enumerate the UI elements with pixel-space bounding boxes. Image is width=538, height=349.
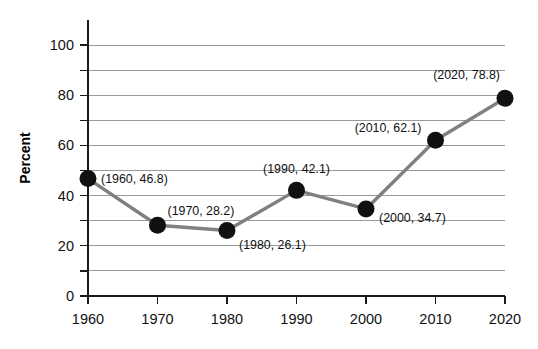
y-axis-tick-label: 40 (58, 188, 74, 204)
data-point-label: (1970, 28.2) (168, 204, 235, 218)
y-axis-title-text: Percent (17, 132, 33, 184)
data-point-label: (2000, 34.7) (379, 211, 446, 225)
x-axis-tick-label: 2010 (419, 311, 451, 327)
data-point-marker (219, 222, 236, 239)
y-axis-tick-label: 100 (50, 37, 74, 53)
line-chart-figure: 020406080100 196019701980199020002010202… (0, 0, 538, 349)
y-axis-tick-label: 0 (66, 288, 74, 304)
data-point-label: (1960, 46.8) (101, 172, 168, 186)
x-axis-tick-label: 1970 (141, 311, 173, 327)
data-point-marker (80, 170, 97, 187)
data-point-marker (358, 200, 375, 217)
data-point-label: (1980, 26.1) (239, 238, 306, 252)
y-axis-tick-label: 60 (58, 137, 74, 153)
data-point-label: (2010, 62.1) (355, 121, 422, 135)
axes-group (88, 20, 505, 296)
chart-canvas: 020406080100 196019701980199020002010202… (0, 0, 538, 349)
x-axis-tick-label: 2000 (350, 311, 382, 327)
x-axis-tick-label: 2020 (489, 311, 521, 327)
x-axis-tick-labels: 1960197019801990200020102020 (72, 311, 521, 327)
x-axis-tick-label: 1980 (211, 311, 243, 327)
data-point-label: (1990, 42.1) (263, 162, 330, 176)
x-axis-ticks-group (88, 296, 505, 304)
data-point-marker (288, 182, 305, 199)
data-point-marker (149, 217, 166, 234)
data-point-label: (2020, 78.8) (433, 68, 500, 82)
y-axis-tick-label: 20 (58, 238, 74, 254)
y-axis-tick-labels: 020406080100 (50, 37, 74, 304)
y-axis-tick-label: 80 (58, 87, 74, 103)
data-point-marker (497, 90, 514, 107)
y-axis-title: Percent (17, 132, 33, 184)
x-axis-tick-label: 1960 (72, 311, 104, 327)
x-axis-tick-label: 1990 (280, 311, 312, 327)
data-point-marker (427, 132, 444, 149)
